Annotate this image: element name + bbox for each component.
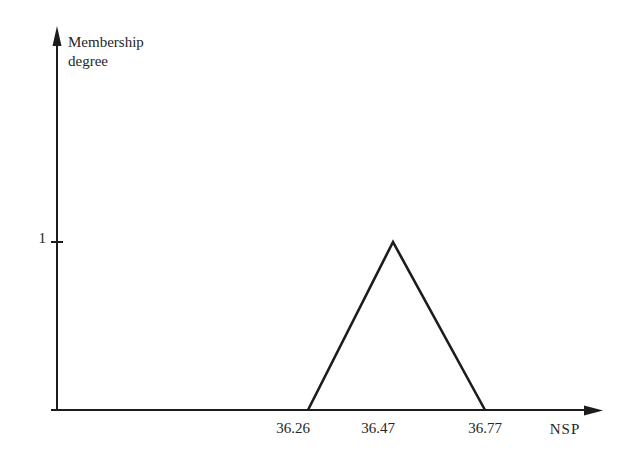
x-tick-label-36-77: 36.77 <box>468 419 502 438</box>
x-axis-arrowhead-icon <box>584 406 603 416</box>
x-tick-label-36-47: 36.47 <box>361 419 395 438</box>
y-axis-label-line1: Membership <box>68 33 144 52</box>
y-tick-label-1: 1 <box>30 229 46 248</box>
y-axis-label-line2: degree <box>68 52 144 71</box>
y-axis-arrowhead-icon <box>53 26 62 46</box>
membership-triangle <box>308 242 485 410</box>
y-axis-label: Membership degree <box>68 33 144 71</box>
x-axis-label: NSP <box>550 420 581 439</box>
fuzzy-membership-chart: Membership degree 1 36.26 36.47 36.77 NS… <box>0 0 618 465</box>
x-tick-label-36-26: 36.26 <box>276 419 310 438</box>
